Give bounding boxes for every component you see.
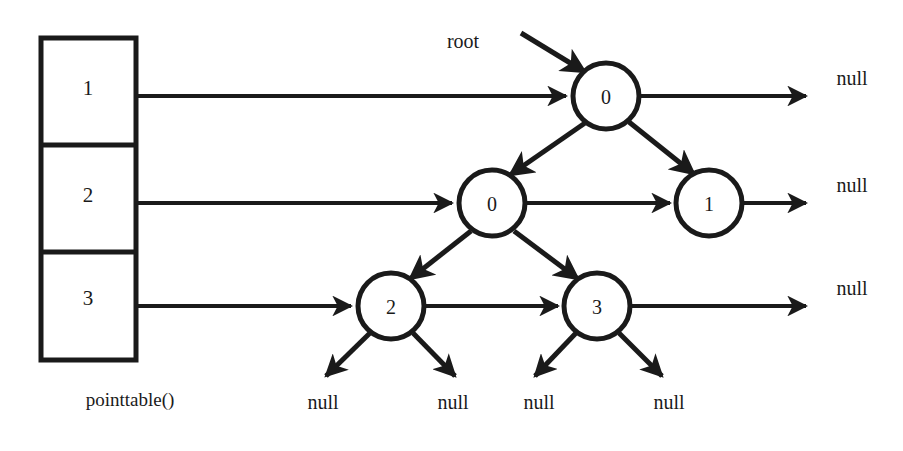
pointtable-caption: pointtable() xyxy=(86,389,175,411)
node-value-row2b: 1 xyxy=(704,193,714,216)
node-value-row3b: 3 xyxy=(592,296,602,319)
node-value-row3a: 2 xyxy=(386,296,396,319)
child-arrow-root-right xyxy=(629,122,694,174)
null-arrow-row3a-right xyxy=(413,333,455,376)
node-value-row2a: 0 xyxy=(487,193,497,216)
null-label-bottom-2: null xyxy=(437,391,468,414)
pointtable-cell-value-2: 2 xyxy=(83,183,94,208)
null-label-bottom-1: null xyxy=(307,391,338,414)
pointtable-cell-value-3: 3 xyxy=(83,286,94,311)
diagram-vector-layer xyxy=(0,0,903,451)
child-arrow-row2a-left xyxy=(410,231,471,279)
null-label-right-1: null xyxy=(836,67,867,90)
null-arrow-row3b-right xyxy=(619,333,662,376)
null-label-right-3: null xyxy=(836,277,867,300)
child-arrow-root-left xyxy=(510,123,585,175)
child-arrow-row2a-right xyxy=(514,231,578,279)
null-arrow-row3b-left xyxy=(535,333,576,376)
node-value-root: 0 xyxy=(601,86,611,109)
null-arrow-row3a-left xyxy=(326,333,370,376)
pointtable-cell-value-1: 1 xyxy=(83,76,94,101)
root-arrow xyxy=(521,33,585,72)
diagram-canvas: 1 2 3 pointtable() root 0 0 1 2 3 null n… xyxy=(0,0,903,451)
null-label-bottom-4: null xyxy=(653,391,684,414)
root-label: root xyxy=(447,30,479,53)
null-label-right-2: null xyxy=(836,174,867,197)
null-label-bottom-3: null xyxy=(523,391,554,414)
